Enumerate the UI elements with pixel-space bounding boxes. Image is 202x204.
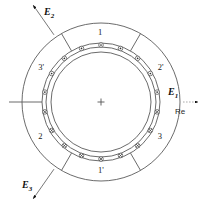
conductor-out-7: [49, 71, 54, 76]
conductor-out-5: [79, 46, 84, 51]
dot-center-icon: [81, 48, 83, 50]
sector-label-1-prime: 1': [98, 166, 104, 175]
dot-center-icon: [51, 73, 53, 75]
conductor-out-6: [62, 56, 67, 61]
dot-center-icon: [100, 44, 102, 46]
dot-center-icon: [64, 57, 66, 59]
conductor-in-12: [79, 153, 84, 158]
conductor-in-14: [118, 153, 123, 158]
center-marker-group: [98, 99, 105, 106]
phasor-e3-label: E3: [22, 180, 32, 193]
dot-center-icon: [156, 91, 158, 93]
sector-boundary-4: [62, 153, 72, 170]
dot-center-icon: [137, 57, 139, 59]
phasor-e3-line: [33, 169, 54, 198]
conductor-in-15: [135, 143, 140, 148]
sector-label-2-prime: 2': [158, 63, 164, 72]
dot-center-icon: [120, 48, 122, 50]
conductor-in-9: [43, 110, 48, 115]
sector-boundary-1: [131, 34, 141, 51]
conductor-out-8: [43, 90, 48, 95]
conductor-out-4: [99, 43, 104, 48]
real-axis-label: Re: [175, 108, 185, 116]
sector-boundary-5: [131, 153, 141, 170]
dot-center-icon: [150, 73, 152, 75]
conductor-out-0: [155, 90, 160, 95]
sector-label-3-prime: 3': [38, 63, 44, 72]
conductor-in-16: [148, 128, 153, 133]
figure-canvas: 12'31'23'E1E2E3Re: [0, 0, 202, 204]
phasor-e2-label: E2: [44, 7, 54, 20]
phasor-arrow-group: [33, 5, 198, 198]
sector-label-3: 3: [158, 132, 162, 141]
conductor-out-2: [135, 56, 140, 61]
conductor-in-11: [62, 143, 67, 148]
sector-label-1: 1: [98, 28, 102, 37]
conductor-in-17: [155, 110, 160, 115]
sector-boundary-2: [62, 34, 72, 51]
dot-center-icon: [44, 91, 46, 93]
conductor-in-10: [49, 128, 54, 133]
conductor-out-1: [148, 71, 153, 76]
phasor-e1-label: E1: [168, 87, 178, 100]
conductor-in-13: [99, 157, 104, 162]
conductor-out-3: [118, 46, 123, 51]
sector-label-2: 2: [38, 132, 42, 141]
